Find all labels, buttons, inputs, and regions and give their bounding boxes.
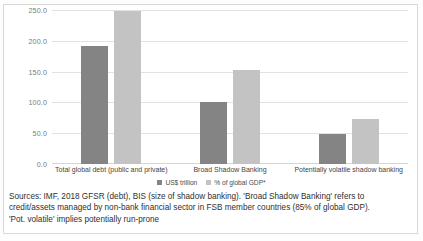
y-tick-label: 150.0 — [29, 68, 48, 75]
bar-pct-gdp[interactable] — [352, 119, 379, 164]
x-axis-category-labels: Total global debt (public and private) B… — [52, 166, 408, 174]
bar-group — [289, 8, 408, 164]
plot-area: 250.0 200.0 150.0 100.0 50.0 0.0 — [8, 8, 408, 164]
source-note-line: Sources: IMF, 2018 GFSR (debt), BIS (siz… — [9, 191, 413, 202]
legend-swatch-icon — [206, 180, 211, 185]
source-notes: Sources: IMF, 2018 GFSR (debt), BIS (siz… — [9, 191, 413, 225]
y-tick-label: 100.0 — [29, 99, 48, 106]
legend-swatch-icon — [157, 180, 162, 185]
legend-item-pct-gdp[interactable]: % of global GDP* — [206, 179, 265, 186]
category-label: Broad Shadow Banking — [171, 166, 290, 174]
source-note-line: 'Pot. volatile' implies potentially run-… — [9, 214, 413, 225]
y-tick-label: 50.0 — [33, 130, 47, 137]
source-note-line: credit/assets managed by non-bank financ… — [9, 202, 413, 213]
category-label: Potentially volatile shadow banking — [289, 166, 408, 174]
y-tick-label: 0.0 — [37, 161, 47, 168]
y-tick-label: 250.0 — [29, 7, 48, 14]
bar-group — [52, 8, 171, 164]
y-axis: 250.0 200.0 150.0 100.0 50.0 0.0 — [8, 8, 50, 164]
legend-label: % of global GDP* — [214, 179, 265, 186]
bar-pct-gdp[interactable] — [114, 11, 141, 164]
bar-us-trillion[interactable] — [200, 102, 227, 164]
legend-label: US$ trillion — [165, 179, 197, 186]
chart-figure: 250.0 200.0 150.0 100.0 50.0 0.0 — [0, 0, 423, 241]
legend-item-us-trillion[interactable]: US$ trillion — [157, 179, 197, 186]
bar-us-trillion[interactable] — [81, 46, 108, 164]
category-label: Total global debt (public and private) — [52, 166, 171, 174]
bar-series-container — [52, 8, 408, 164]
y-tick-label: 200.0 — [29, 37, 48, 44]
bar-us-trillion[interactable] — [319, 134, 346, 164]
bar-pct-gdp[interactable] — [233, 70, 260, 164]
bar-group — [171, 8, 290, 164]
chart-legend: US$ trillion % of global GDP* — [0, 179, 423, 186]
